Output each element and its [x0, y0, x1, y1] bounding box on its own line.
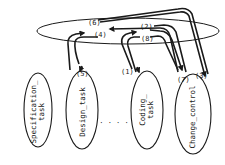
svg-text:Design_task: Design_task: [78, 87, 87, 137]
arrow-label-3: (3): [195, 72, 208, 80]
svg-text:task: task: [37, 102, 46, 121]
svg-text:task: task: [146, 100, 155, 119]
arrow-label-1: (1): [121, 68, 134, 76]
arrow-label-2: (2): [140, 23, 153, 31]
arrow-label-8: (8): [141, 35, 154, 43]
svg-text:Change_control: Change_control: [188, 85, 197, 148]
task-label-change-control: Change_control: [188, 85, 197, 148]
arrow-label-6: (6): [88, 19, 101, 27]
ellipsis-dots: · · · ·: [99, 119, 129, 127]
arrow-coding-shared: [122, 32, 140, 72]
task-label-coding: Coding_ task: [138, 94, 155, 126]
diagram-canvas: Specification_ task Design_task Coding_ …: [0, 0, 225, 165]
task-label-design: Design_task: [78, 87, 87, 137]
arrow-label-7: (7): [177, 76, 190, 84]
arrow-label-4: (4): [94, 31, 107, 39]
task-label-specification: Specification_ task: [29, 80, 46, 144]
arrow-label-5: (5): [76, 70, 89, 78]
